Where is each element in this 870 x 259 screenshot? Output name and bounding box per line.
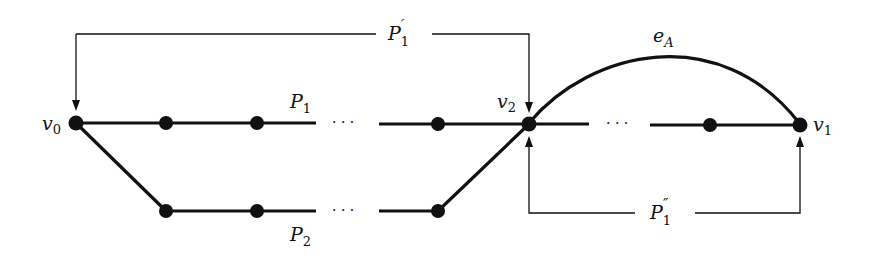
- arrow-down-icon: [72, 100, 80, 111]
- path-p2: · · · P2: [76, 123, 529, 249]
- ellipsis: · · ·: [332, 202, 354, 218]
- vertices: [69, 116, 808, 219]
- arrow-up-icon: [525, 136, 533, 147]
- label-v0: v0: [42, 112, 61, 137]
- vertex: [431, 117, 445, 131]
- vertex: [431, 204, 445, 218]
- ellipsis: · · ·: [332, 114, 354, 130]
- label-p2: P2: [289, 223, 311, 249]
- arrow-up-icon: [796, 136, 804, 147]
- vertex: [250, 204, 264, 218]
- vertex-v2: [522, 117, 537, 132]
- label-e-a: eA: [653, 24, 674, 50]
- path-diagram: P1′ P1″ eA · · · · · · P1 · · · P2: [0, 0, 870, 259]
- bracket-p1-double-prime: P1″: [525, 136, 804, 228]
- vertex-v0: [69, 116, 84, 131]
- vertex: [159, 204, 173, 218]
- label-v1: v1: [813, 113, 832, 138]
- ellipsis: · · ·: [606, 115, 628, 131]
- vertex: [159, 116, 173, 130]
- vertex: [250, 116, 264, 130]
- label-v2: v2: [497, 90, 516, 115]
- edge-e-a: [529, 57, 800, 124]
- vertex: [703, 118, 717, 132]
- label-p1-prime: P1′: [387, 17, 409, 49]
- vertex-v1: [793, 118, 808, 133]
- label-p1: P1: [289, 90, 311, 116]
- label-p1-double-prime: P1″: [649, 196, 671, 228]
- arrow-down-icon: [525, 102, 533, 113]
